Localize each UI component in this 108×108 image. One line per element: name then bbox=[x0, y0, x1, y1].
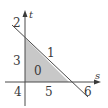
region-diagram: t s 2 1 3 0 4 5 6 bbox=[0, 0, 108, 108]
s-axis-label: s bbox=[95, 70, 100, 81]
t-axis-label: t bbox=[29, 9, 34, 20]
region-label-2: 2 bbox=[13, 16, 21, 30]
region-label-0: 0 bbox=[34, 64, 42, 78]
shaded-triangle bbox=[25, 38, 69, 82]
region-label-5: 5 bbox=[45, 85, 53, 99]
region-label-3: 3 bbox=[13, 54, 21, 68]
region-label-6: 6 bbox=[84, 85, 92, 99]
region-label-1: 1 bbox=[47, 46, 55, 60]
t-axis-arrow-icon bbox=[23, 10, 28, 17]
region-label-4: 4 bbox=[14, 85, 22, 99]
